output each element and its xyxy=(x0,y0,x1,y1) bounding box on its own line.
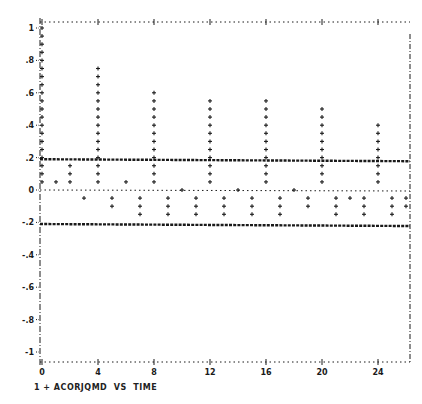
plus-mark xyxy=(320,139,324,143)
plus-mark xyxy=(348,196,352,200)
plus-mark xyxy=(96,148,100,152)
plus-mark xyxy=(390,196,394,200)
plus-mark xyxy=(180,188,184,192)
plus-mark xyxy=(68,164,72,168)
plus-mark xyxy=(96,83,100,87)
plus-mark xyxy=(138,204,142,208)
plus-mark xyxy=(96,75,100,79)
plus-mark xyxy=(390,212,394,216)
y-tick-label: .8 xyxy=(25,56,34,65)
plus-mark xyxy=(124,180,128,184)
plus-mark xyxy=(264,123,268,127)
plus-mark xyxy=(40,50,44,54)
plus-mark xyxy=(320,107,324,111)
x-tick-label: 4 xyxy=(95,368,101,377)
plus-mark xyxy=(264,164,268,168)
plus-mark xyxy=(320,156,324,160)
plus-mark xyxy=(362,212,366,216)
plus-mark xyxy=(96,115,100,119)
plus-mark xyxy=(138,196,142,200)
plus-mark xyxy=(264,107,268,111)
plus-mark xyxy=(208,131,212,135)
plus-mark xyxy=(376,123,380,127)
y-tick-label: .2 xyxy=(25,154,34,163)
chart-caption: 1 + ACORJQMD VS TIME xyxy=(34,383,157,392)
plus-mark xyxy=(208,172,212,176)
plus-mark xyxy=(68,172,72,176)
plus-mark xyxy=(40,123,44,127)
y-tick-label: -.2 xyxy=(22,218,34,227)
plus-mark xyxy=(68,180,72,184)
plus-mark xyxy=(404,204,408,208)
plus-mark xyxy=(264,139,268,143)
plus-mark xyxy=(40,139,44,143)
plus-mark xyxy=(110,204,114,208)
plus-mark xyxy=(40,75,44,79)
plus-mark xyxy=(152,180,156,184)
plus-mark xyxy=(320,164,324,168)
plus-mark xyxy=(278,204,282,208)
plus-mark xyxy=(264,148,268,152)
plus-mark xyxy=(376,180,380,184)
plus-mark xyxy=(376,131,380,135)
upper-confidence-bound xyxy=(40,159,410,161)
plus-mark xyxy=(250,212,254,216)
x-tick-label: 24 xyxy=(372,368,384,377)
plus-mark xyxy=(208,139,212,143)
plus-mark xyxy=(152,107,156,111)
plus-mark xyxy=(152,115,156,119)
plus-mark xyxy=(376,148,380,152)
plus-mark xyxy=(320,180,324,184)
plus-mark xyxy=(40,99,44,103)
plus-mark xyxy=(362,196,366,200)
plus-mark xyxy=(320,148,324,152)
plus-mark xyxy=(40,26,44,30)
plus-mark xyxy=(96,164,100,168)
plus-mark xyxy=(264,172,268,176)
plus-mark xyxy=(82,196,86,200)
plus-mark xyxy=(96,107,100,111)
plus-mark xyxy=(404,196,408,200)
plus-mark xyxy=(40,148,44,152)
plus-mark xyxy=(320,123,324,127)
plus-mark xyxy=(376,139,380,143)
x-tick-label: 20 xyxy=(316,368,328,377)
plus-mark xyxy=(222,204,226,208)
plus-mark xyxy=(278,212,282,216)
plus-mark xyxy=(376,164,380,168)
plus-mark xyxy=(166,196,170,200)
plus-mark xyxy=(40,58,44,62)
plus-mark xyxy=(222,196,226,200)
plus-mark xyxy=(152,148,156,152)
plus-mark xyxy=(40,83,44,87)
y-tick-label: .6 xyxy=(25,89,34,98)
plus-mark xyxy=(40,131,44,135)
plus-mark xyxy=(264,99,268,103)
plus-mark xyxy=(376,172,380,176)
plus-mark xyxy=(208,180,212,184)
autocorrelation-chart: 048121620241.8.6.4.20-.2-.4-.6-.8-1 xyxy=(0,0,422,404)
plus-mark xyxy=(138,212,142,216)
plus-mark xyxy=(152,172,156,176)
plus-mark xyxy=(40,34,44,38)
plus-mark xyxy=(208,107,212,111)
plus-mark xyxy=(362,204,366,208)
plus-mark xyxy=(320,172,324,176)
plus-mark xyxy=(96,139,100,143)
y-tick-label: -.8 xyxy=(22,316,34,325)
y-tick-label: -.6 xyxy=(22,283,34,292)
lower-confidence-bound xyxy=(40,224,410,226)
plus-mark xyxy=(54,180,58,184)
x-tick-label: 16 xyxy=(260,368,272,377)
plus-mark xyxy=(264,156,268,160)
x-tick-label: 8 xyxy=(151,368,157,377)
plus-mark xyxy=(208,99,212,103)
plus-mark xyxy=(194,196,198,200)
plus-mark xyxy=(222,212,226,216)
plus-mark xyxy=(152,91,156,95)
y-tick-label: .4 xyxy=(25,121,34,130)
plus-mark xyxy=(264,115,268,119)
plus-mark xyxy=(292,188,296,192)
plus-mark xyxy=(208,164,212,168)
plus-mark xyxy=(96,131,100,135)
